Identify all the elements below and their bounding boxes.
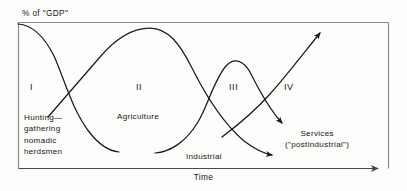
stage-label-industrial: Industrial [186, 152, 222, 162]
stage-numeral-iv: IV [284, 82, 294, 94]
stage-label-agriculture: Agriculture [117, 112, 159, 122]
stage-numeral-iii: III [229, 82, 238, 94]
stage-numeral-i: I [30, 82, 33, 94]
y-axis-label: % of "GDP" [22, 8, 68, 19]
stage-label-hunting-gathering: Hunting— gathering nomadic herdsmen [24, 112, 62, 157]
stage-numeral-ii: II [136, 82, 142, 94]
chart-screenshot: % of "GDP" Time I II III IV Hunting— gat… [0, 0, 407, 191]
curve-agriculture [48, 28, 272, 155]
x-axis-label: Time [0, 172, 407, 183]
stage-label-services: Services ("postindustrial") [285, 128, 349, 151]
curve-industrial [155, 61, 282, 153]
